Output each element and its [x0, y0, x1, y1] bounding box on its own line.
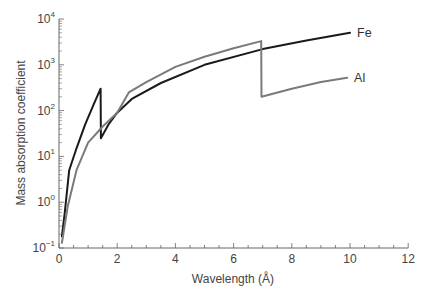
y-tick-label: 102	[37, 102, 55, 118]
series-fe-label: Fe	[357, 26, 372, 40]
x-tick-label: 12	[402, 252, 416, 266]
y-axis-title: Mass absorption coefficient	[14, 60, 28, 206]
axes	[59, 19, 408, 248]
x-tick-label: 4	[172, 252, 179, 266]
x-tick-label: 6	[230, 252, 237, 266]
x-axis-title: Wavelength (Å)	[192, 271, 274, 286]
y-tick-label: 101	[37, 147, 55, 163]
x-tick-label: 10	[343, 252, 357, 266]
y-tick-label: 100	[37, 193, 55, 209]
series-fe-line	[62, 33, 350, 237]
absorption-chart: 02468101210410310210110010−1 FeAl Wavele…	[0, 0, 424, 294]
y-tick-label: 10−1	[33, 239, 56, 255]
x-tick-label: 0	[56, 252, 63, 266]
y-tick-label: 104	[37, 10, 55, 26]
x-tick-label: 2	[114, 252, 121, 266]
x-tick-label: 8	[288, 252, 295, 266]
series-al-line	[62, 41, 347, 243]
series-al-label: Al	[354, 71, 365, 85]
series-lines: FeAl	[62, 26, 372, 243]
ticks: 02468101210410310210110010−1	[33, 10, 416, 266]
y-tick-label: 103	[37, 56, 55, 72]
